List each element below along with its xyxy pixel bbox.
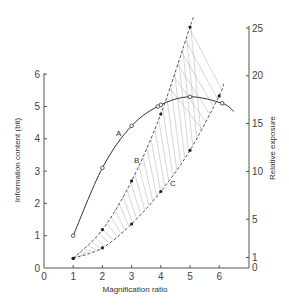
curve-c-point xyxy=(72,257,75,260)
hatch-line xyxy=(179,61,189,152)
hatch-line xyxy=(87,245,97,250)
hatch-line xyxy=(147,146,157,196)
hatch-line xyxy=(95,237,105,246)
hatch-line xyxy=(186,40,218,99)
hatch-line xyxy=(91,241,101,248)
curve-c-label: C xyxy=(170,179,176,188)
curve-c-point xyxy=(130,222,133,225)
curve-b-label: B xyxy=(134,156,139,165)
hatch-line xyxy=(171,85,181,164)
left-y-tick-label: 3 xyxy=(34,166,40,177)
curve-c-line xyxy=(73,83,223,258)
curve-a-point xyxy=(188,95,192,99)
x-tick-label: 1 xyxy=(70,271,76,282)
curve-b-point xyxy=(188,25,191,28)
right-y-tick-label: 5 xyxy=(252,214,258,225)
hatch-line xyxy=(167,97,177,170)
curve-b-point xyxy=(159,112,162,115)
left-y-axis-title: Information content (bit) xyxy=(13,117,22,202)
x-tick-label: 3 xyxy=(129,271,135,282)
curve-c-point xyxy=(218,94,221,97)
right-y-axis-title: Relative exposure xyxy=(268,115,277,180)
x-axis-title: Magnification ratio xyxy=(103,285,168,294)
hatch-line xyxy=(187,37,197,138)
curve-a-line xyxy=(73,97,234,236)
left-y-tick-label: 4 xyxy=(34,133,40,144)
hatch-line xyxy=(151,137,161,191)
hatch-line xyxy=(127,189,137,218)
right-y-tick-label: 0 xyxy=(252,262,258,273)
hatch-line xyxy=(115,209,125,229)
hatch-line xyxy=(135,174,145,209)
curve-a-point xyxy=(220,101,224,105)
curve-a-point xyxy=(130,124,134,128)
left-y-tick-label: 6 xyxy=(34,69,40,80)
left-y-tick-label: 2 xyxy=(34,198,40,209)
right-y-tick-label: 15 xyxy=(252,118,264,129)
hatch-line xyxy=(139,165,149,205)
x-tick-label: 5 xyxy=(187,271,193,282)
hatch-line xyxy=(123,196,133,223)
hatch-line xyxy=(159,119,169,180)
curve-c-point xyxy=(159,190,162,193)
curve-a-label: A xyxy=(116,129,122,138)
curve-a-point xyxy=(101,166,105,170)
right-y-tick-label: 20 xyxy=(252,70,264,81)
x-tick-label: 6 xyxy=(216,271,222,282)
hatch-line xyxy=(119,203,129,227)
curve-a-point xyxy=(71,234,75,238)
hatch-line xyxy=(155,128,165,186)
hatch-line xyxy=(143,156,153,201)
curve-c-point xyxy=(188,149,191,152)
right-y-tick-label: 10 xyxy=(252,166,264,177)
curve-b-point xyxy=(101,228,104,231)
x-tick-label: 2 xyxy=(100,271,106,282)
hatch-line xyxy=(163,108,173,174)
hatch-line xyxy=(83,249,93,251)
hatch-line xyxy=(107,223,117,237)
hatch-line xyxy=(191,25,201,130)
hatched-region xyxy=(75,25,222,257)
right-y-tick-label: 25 xyxy=(252,23,264,34)
left-y-tick-label: 5 xyxy=(34,101,40,112)
hatch-line xyxy=(190,28,222,89)
hatch-line xyxy=(99,233,109,242)
x-tick-label: 4 xyxy=(158,271,164,282)
hatch-line xyxy=(131,183,141,214)
right-y-tick-label: 1 xyxy=(252,252,258,263)
left-y-tick-label: 0 xyxy=(34,263,40,274)
hatch-line xyxy=(103,229,113,239)
x-tick-label: 0 xyxy=(41,271,47,282)
curves xyxy=(71,16,233,260)
hatch-line xyxy=(175,73,185,158)
axes: 0123456012345601510152025 xyxy=(34,23,263,283)
curve-a-intersection-point xyxy=(156,105,160,109)
curve-c-point xyxy=(101,246,104,249)
left-y-tick-label: 1 xyxy=(34,230,40,241)
labels: Magnification ratio Information content … xyxy=(13,115,277,294)
curve-b-point xyxy=(130,179,133,182)
chart: 0123456012345601510152025 Magnification … xyxy=(0,0,289,308)
